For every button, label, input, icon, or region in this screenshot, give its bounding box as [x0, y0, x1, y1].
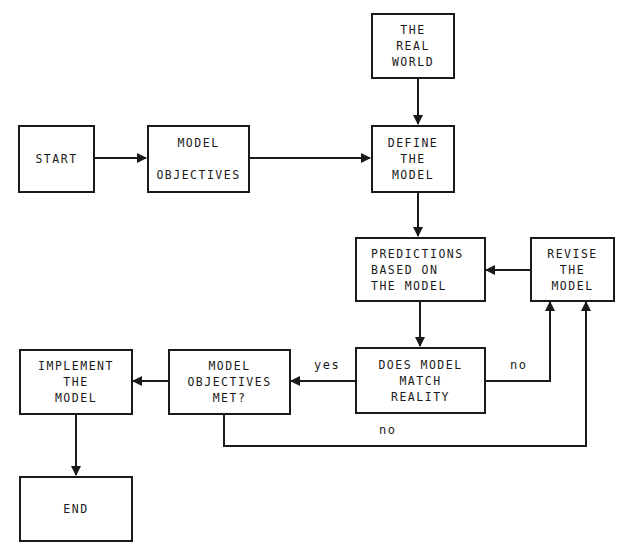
- node-text: THE MODEL: [371, 278, 447, 294]
- edge-label-no-objectives: no: [379, 423, 396, 437]
- node-text: DOES MODEL: [378, 357, 462, 373]
- node-text: MATCH: [399, 373, 441, 389]
- node-text: MODEL: [392, 167, 434, 183]
- node-model-objectives-met: MODEL OBJECTIVES MET?: [168, 349, 291, 415]
- node-implement-the-model: IMPLEMENT THE MODEL: [19, 349, 133, 415]
- node-revise-the-model: REVISE THE MODEL: [530, 237, 615, 302]
- edge-label-no-match: no: [510, 358, 527, 372]
- node-text: THE: [400, 151, 425, 167]
- node-predictions: PREDICTIONS BASED ON THE MODEL: [355, 237, 486, 302]
- edge-label-yes: yes: [314, 358, 340, 372]
- node-define-the-model: DEFINE THE MODEL: [371, 125, 455, 193]
- node-text: PREDICTIONS: [371, 246, 464, 262]
- node-text: MET?: [213, 390, 247, 406]
- node-text: REVISE: [547, 246, 598, 262]
- node-text: THE: [560, 262, 585, 278]
- node-text: REAL: [396, 38, 430, 54]
- node-text: THE: [400, 22, 425, 38]
- node-text: WORLD: [392, 54, 434, 70]
- node-text: END: [63, 501, 88, 517]
- node-text: START: [35, 151, 77, 167]
- node-model-objectives: MODEL OBJECTIVES: [147, 125, 250, 193]
- node-does-model-match-reality: DOES MODEL MATCH REALITY: [355, 347, 486, 414]
- node-text: MODEL: [177, 135, 219, 151]
- node-the-real-world: THE REAL WORLD: [371, 13, 455, 79]
- node-text: OBJECTIVES: [156, 167, 240, 183]
- node-text: BASED ON: [371, 262, 438, 278]
- node-text: OBJECTIVES: [187, 374, 271, 390]
- node-text: MODEL: [55, 390, 97, 406]
- node-text: DEFINE: [388, 135, 439, 151]
- node-text: REALITY: [391, 389, 450, 405]
- node-text: MODEL: [208, 358, 250, 374]
- node-text: IMPLEMENT: [38, 358, 114, 374]
- node-end: END: [19, 476, 133, 542]
- node-text: MODEL: [551, 278, 593, 294]
- node-text: THE: [63, 374, 88, 390]
- node-start: START: [18, 125, 95, 193]
